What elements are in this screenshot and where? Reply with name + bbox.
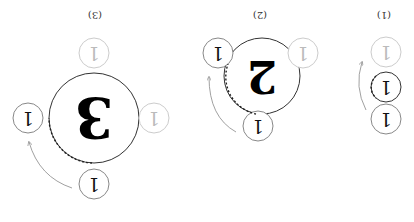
- panel-3-small-value-top: 1: [88, 43, 99, 64]
- panel-1-center-value: 1: [380, 77, 391, 98]
- panel-3-small-circle-left: 1: [13, 103, 43, 133]
- panel-1-bottom-circle: 1: [371, 104, 401, 134]
- panel-1-faded-value: 1: [380, 42, 391, 63]
- panel-3-small-value-left: 1: [22, 108, 33, 129]
- panel-2-small-circle-active: 1: [203, 38, 233, 68]
- panel-2-small-circle-faded: 1: [288, 38, 318, 68]
- panel-3-center-number: 3: [75, 85, 114, 151]
- panel-2-small-value-b: 1: [297, 43, 308, 64]
- panel-3: (3) 3 1 1 1 1: [13, 10, 169, 199]
- panel-3-small-value-bottom: 1: [88, 174, 99, 195]
- panel-2-center-number: 2: [247, 51, 278, 102]
- panel-2-label: (2): [253, 10, 267, 21]
- diagram-stage: (1) 1 1 1 (2) 2 1 1: [0, 0, 414, 222]
- panel-3-small-circle-top: 1: [79, 38, 109, 68]
- panel-3-small-circle-right: 1: [139, 103, 169, 133]
- panel-1-faded-circle: 1: [371, 37, 401, 67]
- circle-growth-diagram: (1) 1 1 1 (2) 2 1 1: [0, 0, 414, 222]
- panel-3-label: (3): [88, 10, 102, 21]
- panel-3-small-circle-bottom: 1: [79, 169, 109, 199]
- panel-2-small-circle-bottom: 1: [243, 111, 273, 141]
- panel-1-bottom-value: 1: [380, 109, 391, 130]
- panel-3-small-value-right: 1: [148, 108, 159, 129]
- panel-1: (1) 1 1 1: [359, 10, 401, 134]
- panel-2-small-value-a: 1: [212, 43, 223, 64]
- panel-2-small-value-c: 1: [252, 116, 263, 137]
- panel-1-label: (1): [377, 10, 391, 21]
- panel-1-rotation-arrow: [359, 62, 366, 110]
- panel-2: (2) 2 1 1 1: [203, 10, 318, 141]
